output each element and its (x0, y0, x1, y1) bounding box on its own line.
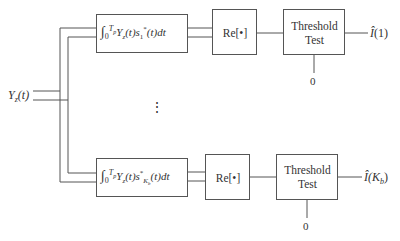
ellipsis: ⋮ (150, 101, 164, 115)
correlator-bottom: ∫0TpYz(t)s*Kb(t)dt (101, 169, 169, 187)
real-part-top: Re[•] (213, 26, 257, 40)
correlator-top: ∫0TpYz(t)s1*(t)dt (101, 25, 166, 41)
threshold-test-top: ThresholdTest (284, 19, 345, 48)
input-signal-label: Yz(t) (8, 89, 29, 104)
output-estimate-top: Î(1) (370, 27, 388, 39)
real-part-bottom: Re[•] (206, 171, 250, 185)
threshold-test-bottom: ThresholdTest (277, 163, 338, 192)
threshold-ref-top: 0 (310, 76, 316, 87)
output-estimate-bottom: Î(Kb) (364, 171, 388, 186)
threshold-ref-bottom: 0 (303, 221, 309, 232)
